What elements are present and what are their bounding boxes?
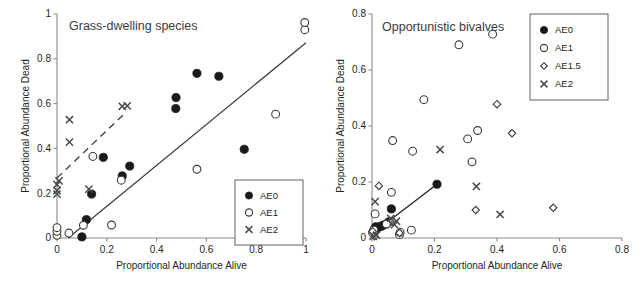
legend-label-AE2: AE2 [260,224,278,235]
y-tick-label: 0.8 [352,8,366,19]
data-point-AE1-2 [371,210,379,218]
data-point-AE1-6 [108,221,116,229]
x-tick-label: 0.8 [615,244,629,255]
legend-label-AE0: AE0 [555,24,573,35]
x-tick-label: 0.4 [150,244,164,255]
data-point-AE0-10 [433,180,441,188]
data-point-AE1-4 [79,221,87,229]
x-axis-title: Proportional Abundance Alive [432,260,563,271]
data-point-AE1-7 [117,176,125,184]
data-point-AE1-11 [301,19,309,27]
series-AE1.5 [369,100,557,240]
data-point-AE0-7 [172,93,180,101]
data-point-AE1-5 [89,153,97,161]
y-tick-label: 0.6 [37,98,51,109]
right-chart-svg: 00.20.40.60.800.20.40.60.8Proportional A… [322,0,644,288]
y-tick-label: 0.2 [37,188,51,199]
legend-marker-open-circle-icon [540,44,547,51]
x-tick-label: 0.4 [490,244,504,255]
x-tick-label: 0 [369,244,375,255]
legend-label-AE0: AE0 [260,190,278,201]
data-point-AE0-6 [172,104,180,112]
data-point-AE2-6 [437,146,444,153]
y-tick-label: 0.8 [37,53,51,64]
legend: AE0AE1AE2 [235,180,303,245]
panel-title: Grass-dwelling species [69,19,198,33]
left-chart-svg: 00.20.40.60.8100.20.40.60.81Proportional… [0,0,322,288]
data-point-AE1-8 [193,165,201,173]
data-point-AE2-4 [66,139,73,146]
data-point-AE1-14 [474,127,482,135]
data-point-AE1-9 [409,147,417,155]
data-point-AE1.5-5 [472,206,479,213]
x-tick-label: 0.6 [553,244,567,255]
x-tick-label: 0.8 [249,244,263,255]
y-tick-label: 0.2 [352,176,366,187]
series-AE0 [78,69,249,241]
data-point-AE1-5 [389,137,397,145]
data-point-AE0-9 [215,72,223,80]
data-point-AE2-8 [497,211,504,218]
data-point-AE1-4 [387,188,395,196]
data-point-AE0-10 [240,145,248,153]
y-tick-label: 0.6 [352,64,366,75]
x-tick-label: 0.2 [428,244,442,255]
data-point-AE0-0 [78,233,86,241]
data-point-AE1-12 [464,135,472,143]
data-point-AE1-11 [455,41,463,49]
data-point-AE1-3 [65,229,73,237]
legend-marker-filled-circle-icon [540,26,547,33]
data-point-AE0-9 [387,205,395,213]
data-point-AE1-2 [53,224,61,232]
data-point-AE2-7 [473,183,480,190]
data-point-AE1-9 [272,110,280,118]
panel-title: Opportunistic bivalves [382,20,504,34]
y-tick-label: 0.4 [37,143,51,154]
legend: AE0AE1AE1.5AE2 [530,14,608,100]
x-tick-label: 0.2 [100,244,114,255]
panel-right-opportunistic-bivalves: 00.20.40.60.800.20.40.60.8Proportional A… [322,0,644,288]
y-tick-label: 1 [45,8,51,19]
data-point-AE2-1 [372,198,379,205]
legend-marker-open-circle-icon [245,209,252,216]
data-point-AE1-13 [468,158,476,166]
data-point-AE1-15 [489,30,497,38]
data-point-AE0-5 [126,162,134,170]
figure-container: 00.20.40.60.8100.20.40.60.81Proportional… [0,0,644,288]
data-point-AE1.5-6 [493,100,500,107]
legend-label-AE1.5: AE1.5 [555,60,581,71]
data-point-AE2-8 [124,102,131,109]
x-tick-label: 1 [303,244,309,255]
y-tick-label: 0 [360,232,366,243]
data-point-AE0-3 [99,153,107,161]
data-point-AE1.5-7 [508,130,515,137]
trend-line-dashed-regression [57,113,125,178]
x-axis-title: Proportional Abundance Alive [116,260,247,271]
data-point-AE0-8 [193,69,201,77]
y-tick-label: 0.4 [352,120,366,131]
y-tick-label: 0 [45,232,51,243]
data-point-AE1-10 [420,96,428,104]
y-axis-title: Proportional Abundance Dead [20,59,31,192]
y-axis-title: Proportional Abundance Dead [335,59,346,192]
x-tick-label: 0 [54,244,60,255]
panel-left-grass-dwelling: 00.20.40.60.8100.20.40.60.81Proportional… [0,0,322,288]
legend-label-AE1: AE1 [555,42,573,53]
legend-marker-filled-circle-icon [245,192,252,199]
data-point-AE2-5 [66,116,73,123]
legend-label-AE2: AE2 [555,78,573,89]
data-point-AE1.5-8 [550,204,557,211]
legend-label-AE1: AE1 [260,207,278,218]
x-tick-label: 0.6 [199,244,213,255]
data-point-AE1-8 [407,226,415,234]
data-point-AE1.5-2 [375,182,382,189]
